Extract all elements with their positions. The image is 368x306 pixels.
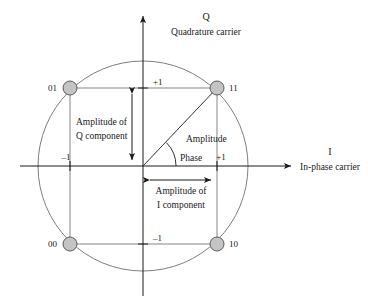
i-axis-tick-negative-label: –1 xyxy=(61,152,71,162)
i-axis-name-label: In-phase carrier xyxy=(300,162,361,172)
symbol-label-01: 01 xyxy=(48,83,57,93)
constellation-point-00[interactable] xyxy=(63,237,77,251)
q-component-annotation-line2: Q component xyxy=(76,131,128,141)
i-axis-tick-positive-label: +1 xyxy=(216,152,226,162)
symbol-label-00: 00 xyxy=(48,239,58,249)
q-axis-tick-positive-label: +1 xyxy=(153,77,163,87)
amplitude-annotation: Amplitude xyxy=(186,134,227,144)
phase-arc xyxy=(167,143,177,166)
qpsk-constellation-diagram: Q Quadrature carrier I In-phase carrier … xyxy=(0,0,368,306)
constellation-canvas: Q Quadrature carrier I In-phase carrier … xyxy=(0,0,368,306)
i-component-annotation-line1: Amplitude of xyxy=(156,186,208,196)
phase-annotation: Phase xyxy=(180,153,202,163)
q-component-annotation-line1: Amplitude of xyxy=(76,117,128,127)
q-axis-tick-negative-label: –1 xyxy=(152,233,162,243)
constellation-point-11[interactable] xyxy=(210,81,224,95)
i-component-annotation-line2: I component xyxy=(157,200,205,210)
q-axis-letter-label: Q xyxy=(202,11,210,22)
constellation-point-10[interactable] xyxy=(210,237,224,251)
i-axis-letter-label: I xyxy=(328,146,331,157)
symbol-label-11: 11 xyxy=(229,83,238,93)
constellation-point-01[interactable] xyxy=(63,81,77,95)
symbol-label-10: 10 xyxy=(229,239,239,249)
q-axis-name-label: Quadrature carrier xyxy=(171,27,242,37)
